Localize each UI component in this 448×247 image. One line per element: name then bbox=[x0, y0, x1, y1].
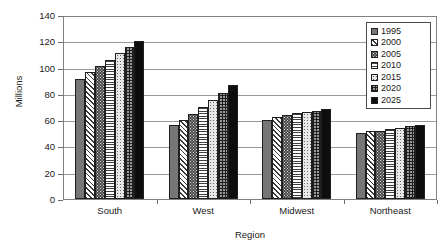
bar bbox=[115, 53, 125, 199]
bar bbox=[198, 107, 208, 199]
x-tick-label: West bbox=[157, 205, 251, 216]
legend-swatch-icon bbox=[371, 39, 378, 46]
x-tick-mark bbox=[437, 200, 438, 204]
legend-label: 2005 bbox=[381, 50, 401, 59]
bar bbox=[292, 113, 302, 199]
legend-swatch-icon bbox=[371, 62, 378, 69]
bar bbox=[415, 125, 425, 199]
legend-label: 2020 bbox=[381, 84, 401, 93]
legend-label: 2000 bbox=[381, 38, 401, 47]
bar bbox=[385, 129, 395, 199]
bar bbox=[228, 85, 238, 199]
bar bbox=[356, 133, 366, 199]
bar bbox=[169, 125, 179, 199]
bar bbox=[375, 131, 385, 199]
x-tick-mark bbox=[157, 200, 158, 204]
x-axis-title: Region bbox=[63, 229, 437, 240]
y-tick-label: 140 bbox=[21, 11, 55, 21]
bar bbox=[272, 117, 282, 199]
legend-item: 2005 bbox=[371, 49, 427, 59]
legend-item: 1995 bbox=[371, 26, 427, 36]
y-tick-label: 120 bbox=[21, 38, 55, 48]
bar bbox=[105, 60, 115, 199]
y-tick-label: 0 bbox=[21, 195, 55, 205]
legend-label: 2015 bbox=[381, 73, 401, 82]
bar bbox=[179, 120, 189, 199]
legend-label: 2025 bbox=[381, 96, 401, 105]
bar bbox=[134, 41, 144, 199]
bar bbox=[75, 79, 85, 199]
y-axis-title: Millions bbox=[13, 47, 24, 137]
legend-swatch-icon bbox=[371, 74, 378, 81]
x-tick-mark bbox=[250, 200, 251, 204]
legend-swatch-icon bbox=[371, 85, 378, 92]
legend-label: 2010 bbox=[381, 61, 401, 70]
x-tick-label: Northeast bbox=[344, 205, 438, 216]
legend-item: 2025 bbox=[371, 95, 427, 105]
legend-item: 2010 bbox=[371, 61, 427, 71]
legend-swatch-icon bbox=[371, 28, 378, 35]
bar bbox=[405, 126, 415, 199]
bar bbox=[208, 100, 218, 199]
x-tick-label: South bbox=[63, 205, 157, 216]
bar-chart: 020406080100120140 Millions SouthWestMid… bbox=[0, 0, 448, 247]
bar bbox=[282, 115, 292, 199]
bar bbox=[302, 112, 312, 199]
bar bbox=[321, 109, 331, 199]
legend-swatch-icon bbox=[371, 97, 378, 104]
legend-item: 2020 bbox=[371, 84, 427, 94]
y-tick-label: 80 bbox=[21, 90, 55, 100]
legend-swatch-icon bbox=[371, 51, 378, 58]
bar bbox=[312, 111, 322, 199]
y-tick-label: 60 bbox=[21, 116, 55, 126]
bar bbox=[95, 66, 105, 199]
y-tick-label: 40 bbox=[21, 143, 55, 153]
bar bbox=[262, 120, 272, 199]
y-tick-label: 20 bbox=[21, 169, 55, 179]
x-tick-label: Midwest bbox=[250, 205, 344, 216]
bar bbox=[218, 93, 228, 199]
y-tick-mark bbox=[58, 200, 63, 201]
bar bbox=[366, 131, 376, 199]
x-tick-mark bbox=[344, 200, 345, 204]
bar bbox=[395, 128, 405, 199]
bar bbox=[188, 114, 198, 199]
bar bbox=[85, 72, 95, 199]
bar bbox=[125, 47, 135, 199]
legend-item: 2015 bbox=[371, 72, 427, 82]
y-tick-label: 100 bbox=[21, 64, 55, 74]
legend-label: 1995 bbox=[381, 27, 401, 36]
legend-item: 2000 bbox=[371, 38, 427, 48]
chart-legend: 1995200020052010201520202025 bbox=[366, 22, 431, 109]
